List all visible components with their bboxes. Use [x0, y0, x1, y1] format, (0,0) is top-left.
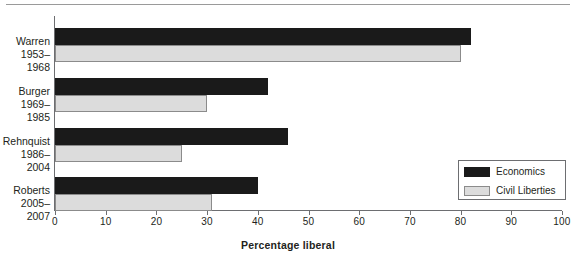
x-tick: [207, 211, 208, 215]
x-axis-title: Percentage liberal: [0, 239, 576, 251]
category-name: Burger: [0, 85, 50, 98]
category-years: 1953–1968: [0, 48, 50, 74]
category-name: Roberts: [0, 184, 50, 197]
legend-swatch-civil-liberties: [464, 186, 490, 196]
x-tick-label: 50: [303, 216, 315, 227]
bar-warren-civil-liberties: [55, 45, 461, 62]
x-tick-label: 60: [353, 216, 365, 227]
x-tick: [55, 211, 56, 215]
category-label-warren: Warren1953–1968: [0, 35, 50, 74]
x-tick-label: 80: [455, 216, 467, 227]
chart-legend: Economics Civil Liberties: [458, 160, 566, 200]
legend-label-civil-liberties: Civil Liberties: [496, 185, 555, 196]
bar-burger-economics: [55, 78, 268, 95]
bar-rehnquist-civil-liberties: [55, 145, 182, 162]
x-tick: [511, 211, 512, 215]
bar-burger-civil-liberties: [55, 95, 207, 112]
bar-roberts-economics: [55, 177, 258, 194]
category-name: Rehnquist: [0, 135, 50, 148]
category-years: 2005–2007: [0, 197, 50, 223]
legend-label-economics: Economics: [496, 166, 545, 177]
legend-item-economics: Economics: [464, 163, 565, 180]
x-tick: [106, 211, 107, 215]
x-tick: [258, 211, 259, 215]
bar-roberts-civil-liberties: [55, 194, 212, 211]
x-tick: [359, 211, 360, 215]
category-label-roberts: Roberts2005–2007: [0, 184, 50, 223]
bar-chart: Warren1953–1968Burger1969–1985Rehnquist1…: [0, 0, 576, 261]
x-tick-label: 10: [100, 216, 112, 227]
x-tick: [461, 211, 462, 215]
x-tick-label: 30: [201, 216, 213, 227]
x-tick: [562, 211, 563, 215]
x-tick-label: 100: [553, 216, 570, 227]
x-tick-label: 0: [52, 216, 58, 227]
x-tick: [156, 211, 157, 215]
x-tick: [410, 211, 411, 215]
top-divider-rule: [6, 4, 570, 5]
bar-rehnquist-economics: [55, 128, 288, 145]
bar-warren-economics: [55, 28, 471, 45]
legend-item-civil-liberties: Civil Liberties: [464, 182, 565, 199]
legend-swatch-economics: [464, 167, 490, 177]
category-years: 1969–1985: [0, 98, 50, 124]
category-label-burger: Burger1969–1985: [0, 85, 50, 124]
category-name: Warren: [0, 35, 50, 48]
x-tick-label: 90: [506, 216, 518, 227]
x-tick-label: 70: [404, 216, 416, 227]
x-tick: [309, 211, 310, 215]
x-tick-label: 20: [151, 216, 163, 227]
category-label-rehnquist: Rehnquist1986–2004: [0, 135, 50, 174]
category-years: 1986–2004: [0, 148, 50, 174]
x-tick-label: 40: [252, 216, 264, 227]
